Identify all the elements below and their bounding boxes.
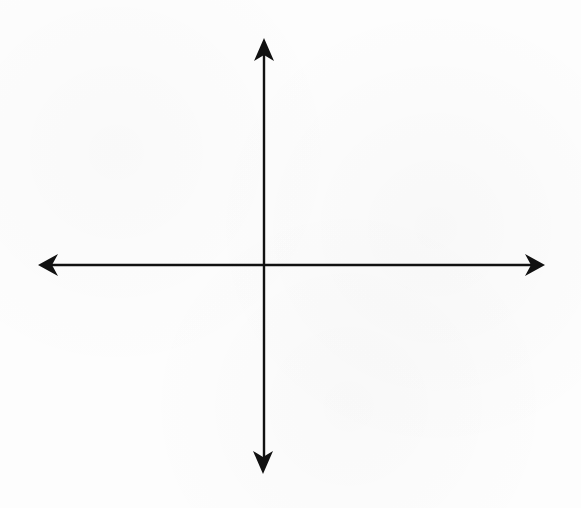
coordinate-axes bbox=[0, 0, 581, 508]
diagram-canvas bbox=[0, 0, 581, 508]
